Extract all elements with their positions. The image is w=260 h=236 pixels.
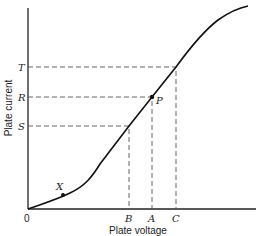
point-X-marker xyxy=(61,193,65,197)
x-marker-C: C xyxy=(172,213,180,224)
y-marker-T: T xyxy=(18,62,26,73)
guide-R-A xyxy=(28,97,152,209)
characteristic-diagram: T R S B A C 0 P X Plate voltage Plate cu… xyxy=(0,0,260,236)
point-X-label: X xyxy=(55,181,64,192)
characteristic-curve xyxy=(28,6,248,209)
y-marker-R: R xyxy=(17,92,26,103)
x-marker-B: B xyxy=(124,213,132,224)
point-P-marker xyxy=(150,95,154,99)
y-axis-title: Plate current xyxy=(3,79,14,136)
point-P-label: P xyxy=(155,95,163,106)
x-marker-A: A xyxy=(147,213,155,224)
guide-S-B xyxy=(28,126,129,209)
x-axis-title: Plate voltage xyxy=(109,225,167,236)
guide-T-C xyxy=(28,67,176,209)
origin-label: 0 xyxy=(24,213,30,224)
y-marker-S: S xyxy=(18,121,25,132)
